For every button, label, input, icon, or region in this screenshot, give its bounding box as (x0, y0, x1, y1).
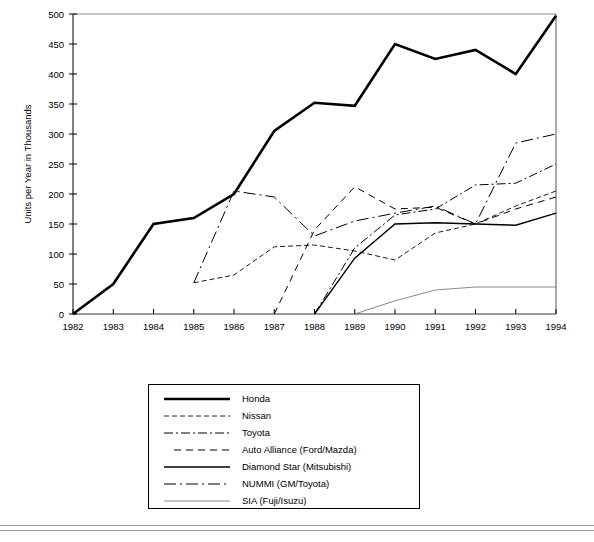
y-tick-label: 100 (48, 249, 64, 260)
legend-entry-label: SIA (Fuji/Isuzu) (242, 495, 306, 506)
legend-entry-label: Diamond Star (Mitsubishi) (242, 461, 351, 472)
chart-legend: HondaNissanToyotaAuto Alliance (Ford/Maz… (148, 384, 420, 509)
y-tick-label: 350 (48, 99, 64, 110)
legend-line-swatch (160, 426, 234, 440)
series-line-nummi-gm-toyota (194, 134, 556, 283)
legend-entry: Diamond Star (Mitsubishi) (149, 458, 419, 475)
legend-line-swatch (160, 477, 234, 491)
series-line-diamond-star-mitsubishi (315, 213, 557, 314)
x-tick-label: 1992 (465, 321, 486, 332)
legend-entry: Nissan (149, 407, 419, 424)
series-line-auto-alliance-ford-mazda (274, 187, 556, 314)
legend-entry-label: Nissan (242, 410, 271, 421)
y-tick-label: 50 (53, 279, 64, 290)
x-tick-label: 1982 (62, 321, 83, 332)
legend-entry: Auto Alliance (Ford/Mazda) (149, 441, 419, 458)
footer-rule-top (0, 525, 594, 526)
legend-line-swatch (160, 392, 234, 406)
legend-entry-label: NUMMI (GM/Toyota) (242, 478, 329, 489)
series-line-honda (73, 16, 556, 314)
series-line-nissan (194, 191, 556, 283)
y-tick-label: 400 (48, 69, 64, 80)
legend-entry-list: HondaNissanToyotaAuto Alliance (Ford/Maz… (149, 385, 419, 508)
legend-line-swatch (160, 409, 234, 423)
x-tick-label: 1985 (183, 321, 204, 332)
legend-entry-label: Honda (242, 393, 270, 404)
footer-rule-bottom (0, 530, 594, 531)
x-tick-label: 1989 (344, 321, 365, 332)
x-tick-label: 1987 (264, 321, 285, 332)
x-tick-label: 1990 (384, 321, 405, 332)
y-tick-label: 500 (48, 9, 64, 20)
chart-page: 0501001502002503003504004505001982198319… (0, 0, 594, 542)
legend-entry: Honda (149, 390, 419, 407)
chart-canvas: 0501001502002503003504004505001982198319… (0, 0, 594, 345)
y-tick-label: 450 (48, 39, 64, 50)
series-line-sia-fuji-isuzu (355, 287, 556, 314)
legend-entry: NUMMI (GM/Toyota) (149, 475, 419, 492)
y-tick-label: 300 (48, 129, 64, 140)
y-tick-label: 200 (48, 189, 64, 200)
legend-line-swatch (160, 494, 234, 508)
legend-entry: SIA (Fuji/Isuzu) (149, 492, 419, 509)
y-tick-label: 0 (59, 309, 64, 320)
legend-entry-label: Toyota (242, 427, 270, 438)
x-tick-label: 1991 (425, 321, 446, 332)
legend-line-swatch (160, 443, 234, 457)
x-tick-label: 1988 (304, 321, 325, 332)
line-chart-figure: 0501001502002503003504004505001982198319… (0, 0, 594, 345)
x-tick-label: 1993 (505, 321, 526, 332)
x-tick-label: 1986 (223, 321, 244, 332)
x-tick-label: 1983 (103, 321, 124, 332)
y-tick-label: 150 (48, 219, 64, 230)
series-line-toyota (315, 164, 557, 314)
x-tick-label: 1994 (545, 321, 566, 332)
legend-line-swatch (160, 460, 234, 474)
legend-entry-label: Auto Alliance (Ford/Mazda) (242, 444, 357, 455)
y-axis-title: Units per Year in Thousands (22, 104, 33, 223)
x-tick-label: 1984 (143, 321, 164, 332)
legend-entry: Toyota (149, 424, 419, 441)
y-tick-label: 250 (48, 159, 64, 170)
